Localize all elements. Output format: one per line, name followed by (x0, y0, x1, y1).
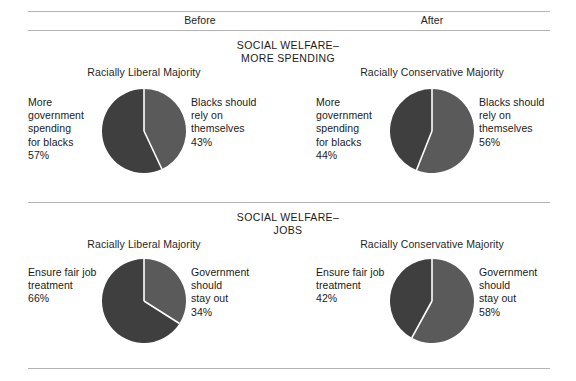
label-line-0: Blacks should (479, 96, 571, 109)
label-line-1: treatment (28, 279, 108, 292)
rule-top (28, 11, 550, 12)
pie-svg (389, 258, 475, 344)
pie-label-right: Governmentshouldstay out34% (191, 266, 283, 319)
label-line-1: rely on (479, 109, 571, 122)
pie-svg (101, 258, 187, 344)
label-line-4: 44% (316, 149, 388, 162)
pie-chart (389, 88, 475, 174)
label-line-0: More (316, 96, 388, 109)
label-line-2: spending (316, 122, 388, 135)
label-line-2: stay out (479, 292, 571, 305)
label-line-1: should (191, 279, 283, 292)
pie-label-left: Moregovernmentspendingfor blacks44% (316, 96, 388, 162)
label-line-0: Ensure fair job (316, 266, 396, 279)
label-line-3: 34% (191, 306, 283, 319)
chart-group-title: Racially Liberal Majority (0, 66, 288, 78)
chart-group-after: Racially Conservative Majority Ensure fa… (288, 202, 576, 368)
label-line-2: 66% (28, 292, 108, 305)
pie-chart (101, 258, 187, 344)
label-line-1: rely on (191, 109, 283, 122)
pie-chart (101, 88, 187, 174)
chart-group-before: Racially Liberal Majority Ensure fair jo… (0, 202, 288, 368)
column-header-after: After (372, 14, 492, 26)
section-social-welfare-jobs: SOCIAL WELFARE– JOBS Racially Liberal Ma… (0, 202, 576, 368)
chart-group-title: Racially Conservative Majority (288, 238, 576, 250)
label-line-4: 57% (28, 149, 100, 162)
label-line-3: for blacks (316, 136, 388, 149)
label-line-0: Ensure fair job (28, 266, 108, 279)
column-header-before: Before (140, 14, 260, 26)
label-line-2: spending (28, 122, 100, 135)
chart-group-title: Racially Conservative Majority (288, 66, 576, 78)
label-line-1: government (28, 109, 100, 122)
pie-label-left: Moregovernmentspendingfor blacks57% (28, 96, 100, 162)
pie-label-right: Governmentshouldstay out58% (479, 266, 571, 319)
label-line-2: 42% (316, 292, 396, 305)
pie-svg (389, 88, 475, 174)
label-line-2: themselves (191, 122, 283, 135)
label-line-2: stay out (191, 292, 283, 305)
pie-chart (389, 258, 475, 344)
rule-bottom (28, 368, 550, 369)
label-line-3: 43% (191, 136, 283, 149)
label-line-2: themselves (479, 122, 571, 135)
label-line-0: More (28, 96, 100, 109)
label-line-3: 58% (479, 306, 571, 319)
figure-container: Before After SOCIAL WELFARE– MORE SPENDI… (0, 0, 576, 381)
label-line-0: Blacks should (191, 96, 283, 109)
label-line-3: for blacks (28, 136, 100, 149)
pie-label-right: Blacks shouldrely onthemselves56% (479, 96, 571, 149)
label-line-0: Government (191, 266, 283, 279)
label-line-1: should (479, 279, 571, 292)
pie-svg (101, 88, 187, 174)
label-line-1: treatment (316, 279, 396, 292)
pie-label-left: Ensure fair jobtreatment42% (316, 266, 396, 306)
chart-group-before: Racially Liberal Majority Moregovernment… (0, 30, 288, 202)
pie-label-left: Ensure fair jobtreatment66% (28, 266, 108, 306)
chart-group-after: Racially Conservative Majority Moregover… (288, 30, 576, 202)
label-line-1: government (316, 109, 388, 122)
chart-group-title: Racially Liberal Majority (0, 238, 288, 250)
pie-label-right: Blacks shouldrely onthemselves43% (191, 96, 283, 149)
label-line-3: 56% (479, 136, 571, 149)
label-line-0: Government (479, 266, 571, 279)
section-social-welfare-more-spending: SOCIAL WELFARE– MORE SPENDING Racially L… (0, 30, 576, 202)
